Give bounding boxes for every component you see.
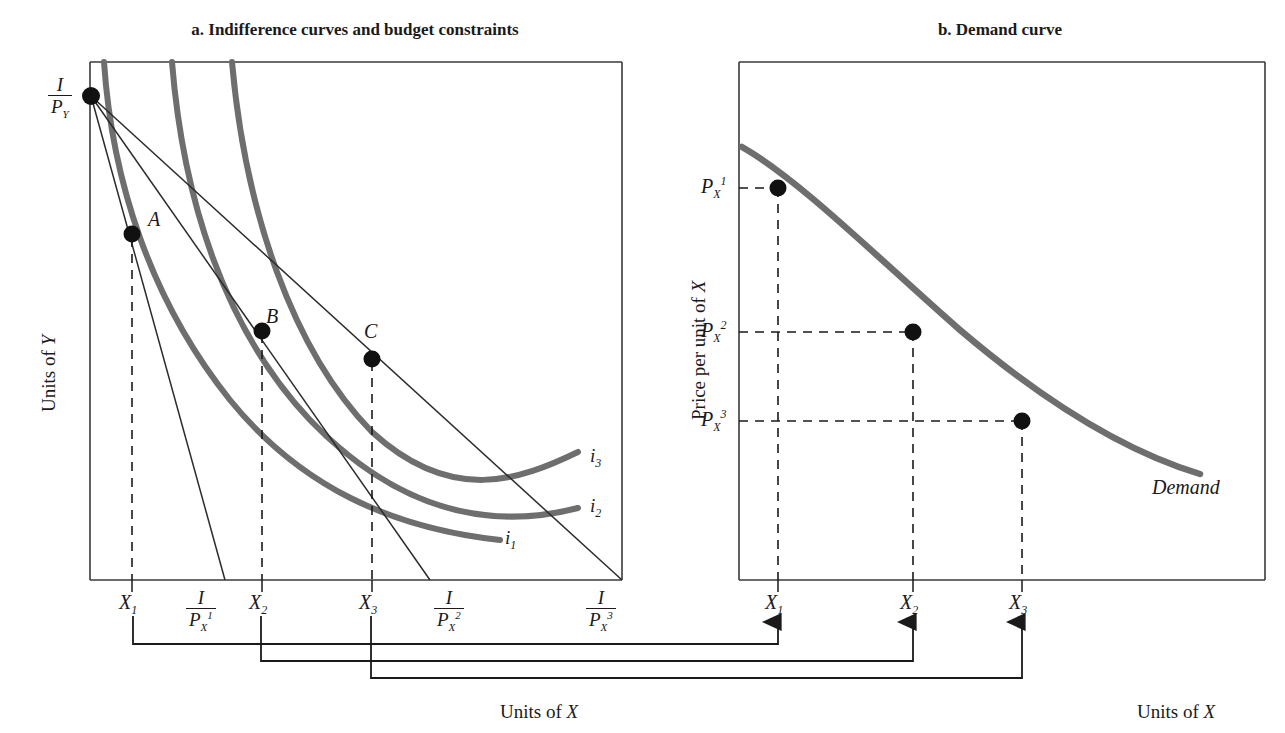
panel-b-ytick-px2: PX2 <box>701 320 727 340</box>
point-C <box>364 351 381 368</box>
panel-a-y-axis-label: Units of Y <box>38 335 60 412</box>
label-income-over-px2: I PX2 <box>434 587 464 631</box>
panel-b-xtick-x2: X2 <box>900 592 918 612</box>
panel-b-y-axis-text: Price per unit of X <box>688 281 709 420</box>
demand-curve-label: Demand <box>1152 476 1220 499</box>
curve-label-i1: i1 <box>505 527 516 549</box>
panel-b-xtick-x3: X3 <box>1009 592 1027 612</box>
panel-a-xtick-x3: X3 <box>359 592 377 612</box>
label-income-over-px3: I PX3 <box>586 587 616 631</box>
income-over-px1-numerator: I <box>186 587 216 608</box>
point-I-over-Py <box>82 87 100 105</box>
curve-label-i2: i2 <box>590 495 601 517</box>
point-label-C: C <box>364 320 377 343</box>
income-over-py-denominator: PY <box>48 95 72 117</box>
guide-px1 <box>739 188 778 580</box>
guide-px3 <box>739 421 1022 580</box>
point-label-A: A <box>148 208 160 231</box>
income-over-px3-numerator: I <box>586 587 616 608</box>
panel-a-x-axis-text: Units of X <box>500 701 578 722</box>
income-over-py-numerator: I <box>48 74 72 95</box>
curve-label-i3: i3 <box>590 445 601 467</box>
panel-b-ytick-px1: PX1 <box>701 176 727 196</box>
panel-b-xtick-x1: X1 <box>765 592 783 612</box>
budget-line-1 <box>91 96 225 580</box>
panel-b-y-axis-label: Price per unit of X <box>688 281 710 420</box>
panel-b-frame <box>739 62 1265 580</box>
point-label-B: B <box>266 305 278 328</box>
demand-point-2 <box>905 324 922 341</box>
income-over-px1-denominator: PX1 <box>186 608 216 630</box>
budget-line-3 <box>91 96 622 580</box>
indifference-curve-i1 <box>104 62 500 540</box>
panel-a-xtick-x1: X1 <box>119 592 137 612</box>
panel-b-x-axis-label: Units of X <box>1137 701 1215 723</box>
income-over-px2-denominator: PX2 <box>434 608 464 630</box>
guide-px2 <box>739 332 913 580</box>
figure-canvas: a. Indifference curves and budget constr… <box>0 0 1285 733</box>
demand-curve <box>742 147 1200 474</box>
panel-a-x-axis-label: Units of X <box>500 701 578 723</box>
income-over-px3-denominator: PX3 <box>586 608 616 630</box>
panel-a-y-axis-text: Units of Y <box>38 335 59 412</box>
demand-point-1 <box>770 180 787 197</box>
indifference-curve-i2 <box>172 62 578 517</box>
label-income-over-py: I PY <box>48 74 72 118</box>
demand-point-3 <box>1014 413 1031 430</box>
label-income-over-px1: I PX1 <box>186 587 216 631</box>
income-over-px2-numerator: I <box>434 587 464 608</box>
connector-x3 <box>371 616 1022 678</box>
panel-b-ytick-px3: PX3 <box>701 409 727 429</box>
point-A <box>124 226 141 243</box>
panel-a-xtick-x2: X2 <box>249 592 267 612</box>
panel-b-x-axis-text: Units of X <box>1137 701 1215 722</box>
